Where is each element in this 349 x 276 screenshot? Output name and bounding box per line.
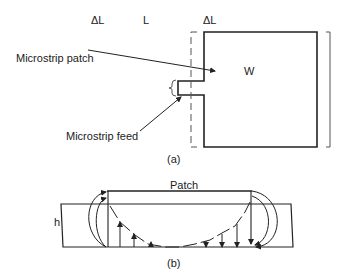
caption-a: (a) xyxy=(167,153,180,165)
patch-callout-arrow xyxy=(88,50,215,71)
patch-label: Patch xyxy=(170,179,198,191)
right-fringe-field-inner xyxy=(252,196,269,245)
microstrip-antenna-diagram: ΔL L ΔL W Microstrip patch Microstrip fe… xyxy=(0,0,349,276)
caption-b: (b) xyxy=(167,257,180,269)
figure-a: ΔL L ΔL W Microstrip patch Microstrip fe… xyxy=(16,14,330,165)
microstrip-patch-callout: Microstrip patch xyxy=(16,52,94,64)
left-fringe-field-inner xyxy=(96,198,106,247)
delta-l-left-label: ΔL xyxy=(91,14,104,26)
figure-b: Patch h (b) xyxy=(54,179,293,269)
width-bracket xyxy=(326,32,330,147)
delta-l-right-label: ΔL xyxy=(203,14,216,26)
fringe-extension-line xyxy=(191,32,197,147)
feed-brace xyxy=(169,80,176,96)
left-fringe-field-outer xyxy=(89,192,106,247)
feed-callout-arrow xyxy=(140,97,181,131)
height-label: h xyxy=(54,216,60,228)
substrate xyxy=(61,204,293,247)
length-label: L xyxy=(143,14,149,26)
field-envelope-curve xyxy=(110,202,250,247)
microstrip-feed-callout: Microstrip feed xyxy=(66,130,138,142)
width-label: W xyxy=(244,65,255,77)
patch-outline xyxy=(178,32,317,147)
right-fringe-field-outer xyxy=(252,191,277,247)
